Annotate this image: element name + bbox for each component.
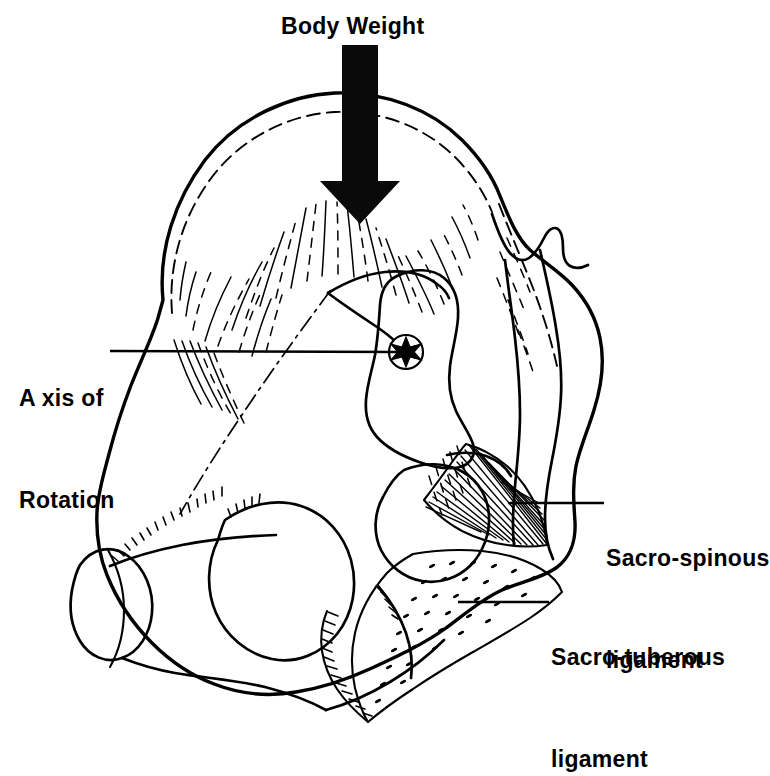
axis-of-rotation-label: A xis of Rotation [19,313,115,585]
axis-marker-center-dot [401,347,412,358]
sacrotuberous-ligament-label: Sacro-tuberous ligament [551,572,725,776]
body-weight-label: Body Weight [281,9,424,43]
sacrotuberous-ligament-label-line2: ligament [551,742,725,776]
axis-of-rotation-leader [110,351,400,352]
sacrospinous-ligament-label-line1: Sacro-spinous [606,541,770,575]
axis-of-rotation-label-line1: A xis of [19,381,115,415]
sacrotuberous-ligament-label-line1: Sacro-tuberous [551,640,725,674]
axis-of-rotation-label-line2: Rotation [19,483,115,517]
